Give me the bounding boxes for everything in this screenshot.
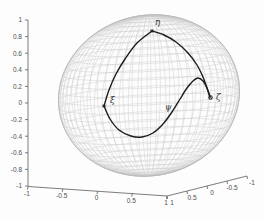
point-marker-eta xyxy=(151,30,154,33)
y-axis-tick-label: 0 xyxy=(210,189,214,196)
meridian-line xyxy=(119,16,149,177)
z-axis-tick-label: -0.2 xyxy=(11,116,23,123)
z-axis-tick-label: 0.8 xyxy=(13,33,22,40)
axis-y: 10.50-0.5-1 xyxy=(167,176,255,206)
meridian-line xyxy=(149,15,151,176)
x-axis-tick-label: 0.5 xyxy=(127,197,136,204)
z-axis-tick-label: -1 xyxy=(16,182,22,189)
x-axis-tick-label: 1 xyxy=(164,199,168,206)
z-axis-tick-label: 0.6 xyxy=(13,50,22,57)
sphere-wireframe xyxy=(58,15,239,176)
meridian-line xyxy=(149,16,193,176)
label-xi: ξ xyxy=(110,95,116,105)
meridian-line xyxy=(149,16,184,176)
z-axis-tick-label: 0 xyxy=(18,99,22,106)
z-axis-tick-label: 0.4 xyxy=(13,66,22,73)
y-axis-tick xyxy=(207,186,208,189)
y-axis-tick-label: 1 xyxy=(170,199,174,206)
point-marker-xi xyxy=(103,105,106,108)
y-axis-tick-label: -0.5 xyxy=(226,184,238,191)
y-axis-tick-label: 0.5 xyxy=(187,194,196,201)
axis-z: 10.80.60.40.20-0.2-0.4-0.6-0.8-1 xyxy=(11,16,28,189)
axis-x: -1-0.500.51 xyxy=(24,187,168,207)
meridian-line xyxy=(114,15,149,175)
z-axis-tick-label: 1 xyxy=(18,16,22,23)
z-axis-tick-label: -0.6 xyxy=(11,149,23,156)
label-psi: ψ xyxy=(165,102,172,112)
sphere-outline xyxy=(58,15,239,176)
z-axis-tick-label: -0.4 xyxy=(11,133,23,140)
z-axis-tick-label: 0.2 xyxy=(13,83,22,90)
y-axis-tick xyxy=(167,196,168,199)
sphere-3d-plot-figure: 10.80.60.40.20-0.2-0.4-0.6-0.8-1-1-0.500… xyxy=(0,0,264,218)
z-axis-tick-label: -0.8 xyxy=(11,166,23,173)
meridian-line xyxy=(147,16,149,177)
x-axis-tick-label: -0.5 xyxy=(56,192,68,199)
y-axis-tick-label: -1 xyxy=(249,179,255,186)
x-axis-tick-label: 0 xyxy=(95,194,99,201)
y-axis-tick xyxy=(247,176,248,179)
plot-canvas: 10.80.60.40.20-0.2-0.4-0.6-0.8-1-1-0.500… xyxy=(0,0,264,218)
meridian-line xyxy=(149,15,179,176)
x-axis-tick-label: -1 xyxy=(24,190,30,197)
